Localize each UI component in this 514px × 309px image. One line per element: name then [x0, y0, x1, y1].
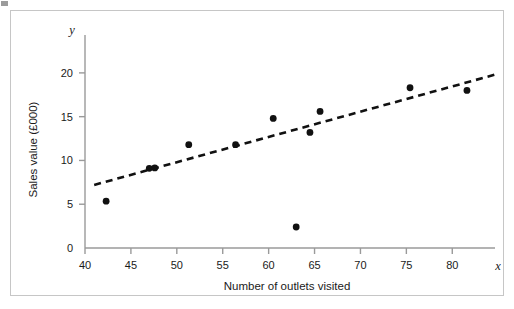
y-axis-letter: y — [67, 23, 75, 37]
data-point — [307, 129, 314, 136]
x-axis-title: Number of outlets visited — [224, 280, 351, 292]
page-caption-strip — [0, 0, 514, 10]
y-tick-label-15: 15 — [61, 111, 73, 123]
x-tick-label-80: 80 — [446, 259, 458, 271]
y-tick-label-10: 10 — [61, 154, 73, 166]
y-tick-label-0: 0 — [67, 242, 73, 254]
x-tick-label-55: 55 — [217, 259, 229, 271]
data-point — [317, 108, 324, 115]
x-tick-label-50: 50 — [171, 259, 183, 271]
y-axis-title: Sales value (£000) — [27, 101, 39, 197]
y-axis-ticks — [79, 73, 85, 204]
data-point — [151, 164, 158, 171]
data-point-group — [103, 84, 471, 230]
scatter-plot: 404550556065707580 05101520 y x Number o… — [11, 11, 503, 295]
x-tick-label-45: 45 — [125, 259, 137, 271]
x-tick-label-40: 40 — [79, 259, 91, 271]
x-tick-label-65: 65 — [308, 259, 320, 271]
x-tick-label-75: 75 — [400, 259, 412, 271]
x-tick-label-60: 60 — [263, 259, 275, 271]
data-point — [103, 198, 110, 205]
x-axis-tick-labels: 404550556065707580 — [79, 259, 459, 271]
axis-lines — [85, 35, 495, 248]
data-point — [293, 224, 300, 231]
x-tick-label-70: 70 — [354, 259, 366, 271]
x-axis-letter: x — [494, 259, 501, 273]
data-point — [232, 141, 239, 148]
data-point — [185, 141, 192, 148]
y-tick-label-20: 20 — [61, 67, 73, 79]
y-axis-tick-labels: 05101520 — [61, 67, 73, 254]
data-point — [464, 87, 471, 94]
x-axis-ticks — [85, 248, 452, 254]
y-tick-label-5: 5 — [67, 198, 73, 210]
caption-bullet-icon — [1, 1, 8, 6]
data-point — [407, 84, 414, 91]
figure-frame: 404550556065707580 05101520 y x Number o… — [10, 10, 504, 296]
data-point — [270, 115, 277, 122]
